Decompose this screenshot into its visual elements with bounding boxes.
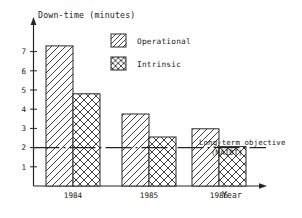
bar-1985-intrinsic[interactable] (149, 137, 176, 186)
objective-label-line1: Long-term objective (199, 138, 286, 147)
y-tick-label-1: 1 (21, 163, 26, 172)
legend-label-intrinsic: Intrinsic (137, 60, 181, 69)
bar-1984-operational[interactable] (46, 46, 73, 186)
y-tick-label-3: 3 (21, 124, 26, 133)
y-tick-label-5: 5 (21, 86, 26, 95)
bar-1985-operational[interactable] (122, 114, 149, 186)
legend-swatch-operational (111, 34, 126, 47)
bar-1984-intrinsic[interactable] (73, 94, 100, 186)
legend-swatch-intrinsic (111, 57, 126, 70)
objective-label-line2: (MAIDT) (211, 148, 243, 157)
x-axis-arrowhead (259, 183, 267, 189)
x-tick-label-1984: 1984 (64, 191, 83, 200)
y-axis-arrowhead (31, 17, 37, 25)
chart-canvas: Down-time (minutes) 7 6 5 4 3 2 1 1984 1… (0, 0, 302, 218)
y-tick-label-6: 6 (21, 67, 26, 76)
x-tick-label-1985: 1985 (140, 191, 158, 200)
downtime-bar-chart: Down-time (minutes) 7 6 5 4 3 2 1 1984 1… (0, 0, 302, 218)
legend-group (111, 34, 126, 70)
y-tick-label-2: 2 (21, 143, 26, 152)
bar-group-1985 (122, 114, 176, 186)
x-axis-name: Year (222, 191, 242, 200)
y-axis-title: Down-time (minutes) (38, 10, 135, 20)
y-tick-label-7: 7 (21, 47, 26, 56)
y-tick-label-4: 4 (21, 105, 26, 114)
bar-group-1984 (46, 46, 100, 186)
legend-label-operational: Operational (137, 37, 191, 46)
